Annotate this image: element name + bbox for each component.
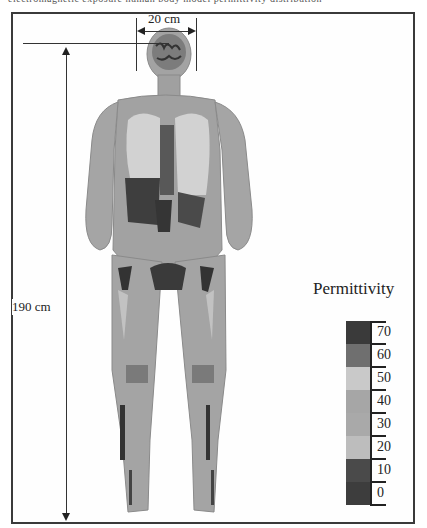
legend-swatch-40 xyxy=(346,390,370,413)
legend-swatch-0 xyxy=(346,482,370,505)
legend-swatch-20 xyxy=(346,436,370,459)
legend-label-40: 40 xyxy=(377,393,391,409)
legend-tick xyxy=(370,389,386,391)
width-guide-right xyxy=(196,18,197,71)
height-dimension-label: 190 cm xyxy=(12,299,51,315)
height-arrow-down-icon xyxy=(62,513,70,521)
legend-tick xyxy=(370,366,386,368)
height-arrow-up-icon xyxy=(62,47,70,55)
width-arrow-left-icon xyxy=(137,27,145,35)
legend-swatch-60 xyxy=(346,344,370,367)
width-dimension-label: 20 cm xyxy=(148,11,180,27)
height-guide-top xyxy=(23,43,169,44)
legend-tick xyxy=(370,321,386,323)
legend-label-30: 30 xyxy=(377,416,391,432)
width-arrow-right-icon xyxy=(188,27,196,35)
legend-swatch-30 xyxy=(346,413,370,436)
legend-tick xyxy=(370,458,386,460)
legend-swatch-50 xyxy=(346,367,370,390)
legend-label-60: 60 xyxy=(377,347,391,363)
legend-label-10: 10 xyxy=(377,462,391,478)
legend-label-0: 0 xyxy=(377,485,384,501)
legend-label-50: 50 xyxy=(377,370,391,386)
legend-title: Permittivity xyxy=(313,279,394,299)
width-dimension-line xyxy=(140,31,192,32)
height-dimension-line xyxy=(66,52,67,516)
legend-tick xyxy=(370,435,386,437)
legend-swatch-70 xyxy=(346,321,370,344)
legend-tick xyxy=(370,343,386,345)
legend-tick xyxy=(370,412,386,414)
legend-label-20: 20 xyxy=(377,439,391,455)
legend-label-70: 70 xyxy=(377,324,391,340)
legend-swatch-10 xyxy=(346,459,370,482)
width-guide-left xyxy=(136,18,137,71)
legend-tick xyxy=(370,504,386,506)
legend-tick xyxy=(370,481,386,483)
